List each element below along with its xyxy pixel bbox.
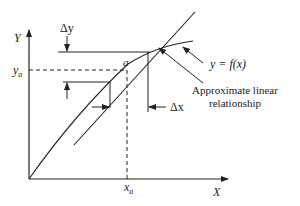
tangent-line (74, 12, 195, 145)
ya-label: ya (12, 63, 22, 79)
curve-label: y = f(x) (209, 57, 246, 71)
linearization-diagram: Y X ya xa a Δy Δx y = f(x) Approximate l… (0, 0, 300, 206)
linear-label-line2: relationship (209, 97, 261, 109)
curve-fx (29, 41, 193, 179)
linear-label-leader (159, 48, 203, 83)
dx-label: Δx (170, 100, 184, 114)
ya-sub: a (18, 70, 22, 79)
linear-label-line1: Approximate linear (192, 84, 278, 96)
xa-label: xa (123, 180, 133, 196)
point-a-label: a (123, 56, 129, 68)
x-axis-label: X (212, 185, 221, 199)
y-axis-label: Y (14, 31, 22, 45)
curve-label-leader (183, 47, 203, 63)
xa-sub: a (129, 187, 133, 196)
dy-label: Δy (60, 21, 74, 35)
